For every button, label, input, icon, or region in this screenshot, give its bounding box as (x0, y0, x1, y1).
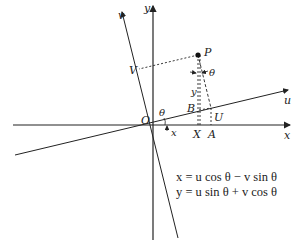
equation-x: x = u cos θ − v sin θ (176, 170, 277, 185)
label-point-p: P (203, 46, 212, 59)
rotation-diagram: y v x u O P V B U X A θ θ x y x = u cos … (0, 0, 297, 249)
label-u-axis: u (284, 94, 291, 107)
label-u-point: U (214, 111, 224, 124)
diagram-canvas: y v x u O P V B U X A θ θ x y (0, 0, 297, 249)
u-axis (15, 90, 288, 155)
label-v-axis: v (118, 9, 125, 22)
label-theta-p: θ (209, 67, 215, 78)
label-b-point: B (186, 102, 195, 115)
label-origin: O (141, 114, 150, 127)
label-v-point: V (129, 64, 138, 77)
label-y-segment: y (190, 86, 197, 97)
label-x-near-origin: x (171, 127, 177, 138)
label-x-point: X (192, 128, 202, 141)
label-theta-origin: θ (159, 107, 165, 118)
theta-arrow-right (202, 71, 208, 73)
point-p (195, 52, 200, 57)
label-x-axis: x (284, 129, 291, 142)
label-y-axis: y (143, 2, 151, 15)
equation-y: y = u sin θ + v cos θ (176, 185, 277, 200)
theta-arrow-left (190, 72, 196, 73)
label-a-point: A (207, 128, 216, 141)
dashed-p-to-v (139, 55, 198, 69)
